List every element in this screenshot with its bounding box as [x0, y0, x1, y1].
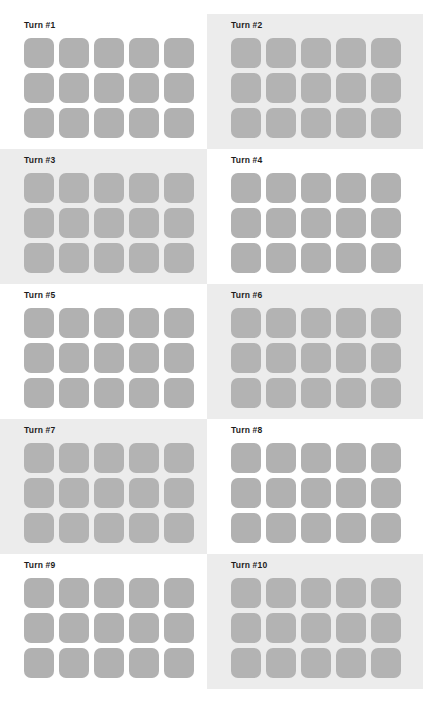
grid-tile[interactable] [231, 513, 261, 543]
grid-tile[interactable] [266, 443, 296, 473]
grid-tile[interactable] [231, 38, 261, 68]
grid-tile[interactable] [301, 38, 331, 68]
grid-tile[interactable] [266, 648, 296, 678]
grid-tile[interactable] [24, 578, 54, 608]
grid-tile[interactable] [301, 648, 331, 678]
grid-tile[interactable] [301, 308, 331, 338]
grid-tile[interactable] [231, 648, 261, 678]
grid-tile[interactable] [59, 108, 89, 138]
grid-tile[interactable] [164, 513, 194, 543]
turn-panel[interactable]: Turn #1 [0, 14, 207, 149]
turn-panel[interactable]: Turn #3 [0, 149, 207, 284]
grid-tile[interactable] [59, 478, 89, 508]
grid-tile[interactable] [129, 343, 159, 373]
grid-tile[interactable] [59, 308, 89, 338]
grid-tile[interactable] [301, 243, 331, 273]
grid-tile[interactable] [231, 613, 261, 643]
turn-panel[interactable]: Turn #2 [207, 14, 423, 149]
grid-tile[interactable] [371, 108, 401, 138]
grid-tile[interactable] [24, 443, 54, 473]
grid-tile[interactable] [371, 243, 401, 273]
grid-tile[interactable] [231, 478, 261, 508]
grid-tile[interactable] [371, 648, 401, 678]
grid-tile[interactable] [266, 108, 296, 138]
grid-tile[interactable] [336, 308, 366, 338]
grid-tile[interactable] [164, 648, 194, 678]
grid-tile[interactable] [129, 613, 159, 643]
grid-tile[interactable] [129, 648, 159, 678]
grid-tile[interactable] [266, 243, 296, 273]
grid-tile[interactable] [164, 73, 194, 103]
grid-tile[interactable] [59, 343, 89, 373]
grid-tile[interactable] [59, 243, 89, 273]
grid-tile[interactable] [266, 578, 296, 608]
grid-tile[interactable] [164, 173, 194, 203]
grid-tile[interactable] [266, 73, 296, 103]
grid-tile[interactable] [59, 443, 89, 473]
grid-tile[interactable] [371, 343, 401, 373]
grid-tile[interactable] [164, 443, 194, 473]
grid-tile[interactable] [164, 208, 194, 238]
grid-tile[interactable] [301, 343, 331, 373]
grid-tile[interactable] [24, 308, 54, 338]
grid-tile[interactable] [59, 378, 89, 408]
grid-tile[interactable] [24, 243, 54, 273]
grid-tile[interactable] [129, 208, 159, 238]
grid-tile[interactable] [164, 478, 194, 508]
grid-tile[interactable] [129, 73, 159, 103]
grid-tile[interactable] [24, 173, 54, 203]
grid-tile[interactable] [164, 38, 194, 68]
grid-tile[interactable] [59, 513, 89, 543]
grid-tile[interactable] [94, 343, 124, 373]
grid-tile[interactable] [301, 208, 331, 238]
grid-tile[interactable] [231, 108, 261, 138]
grid-tile[interactable] [231, 443, 261, 473]
grid-tile[interactable] [336, 108, 366, 138]
grid-tile[interactable] [301, 613, 331, 643]
grid-tile[interactable] [301, 73, 331, 103]
grid-tile[interactable] [129, 578, 159, 608]
grid-tile[interactable] [129, 378, 159, 408]
grid-tile[interactable] [94, 73, 124, 103]
grid-tile[interactable] [231, 378, 261, 408]
grid-tile[interactable] [336, 578, 366, 608]
grid-tile[interactable] [336, 73, 366, 103]
grid-tile[interactable] [301, 578, 331, 608]
grid-tile[interactable] [129, 513, 159, 543]
grid-tile[interactable] [24, 648, 54, 678]
grid-tile[interactable] [301, 443, 331, 473]
turn-panel[interactable]: Turn #10 [207, 554, 423, 689]
grid-tile[interactable] [164, 243, 194, 273]
grid-tile[interactable] [24, 38, 54, 68]
grid-tile[interactable] [371, 378, 401, 408]
turn-panel[interactable]: Turn #9 [0, 554, 207, 689]
grid-tile[interactable] [336, 243, 366, 273]
grid-tile[interactable] [266, 478, 296, 508]
grid-tile[interactable] [371, 578, 401, 608]
grid-tile[interactable] [164, 343, 194, 373]
grid-tile[interactable] [164, 308, 194, 338]
grid-tile[interactable] [336, 173, 366, 203]
turn-panel[interactable]: Turn #4 [207, 149, 423, 284]
grid-tile[interactable] [371, 173, 401, 203]
grid-tile[interactable] [94, 108, 124, 138]
grid-tile[interactable] [301, 108, 331, 138]
grid-tile[interactable] [94, 513, 124, 543]
grid-tile[interactable] [129, 308, 159, 338]
grid-tile[interactable] [59, 613, 89, 643]
grid-tile[interactable] [94, 378, 124, 408]
grid-tile[interactable] [266, 613, 296, 643]
grid-tile[interactable] [336, 513, 366, 543]
turn-panel[interactable]: Turn #5 [0, 284, 207, 419]
grid-tile[interactable] [164, 108, 194, 138]
grid-tile[interactable] [336, 208, 366, 238]
grid-tile[interactable] [231, 343, 261, 373]
grid-tile[interactable] [59, 648, 89, 678]
turn-panel[interactable]: Turn #6 [207, 284, 423, 419]
grid-tile[interactable] [266, 208, 296, 238]
grid-tile[interactable] [164, 378, 194, 408]
grid-tile[interactable] [231, 73, 261, 103]
grid-tile[interactable] [231, 243, 261, 273]
grid-tile[interactable] [94, 208, 124, 238]
grid-tile[interactable] [371, 73, 401, 103]
